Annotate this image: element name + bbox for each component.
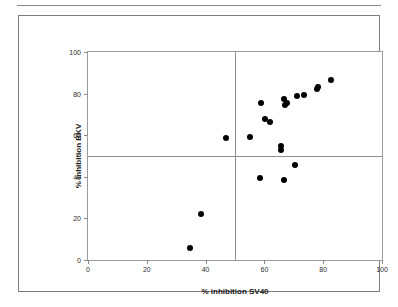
y-tick [84, 177, 88, 178]
page-top-rule [17, 5, 381, 6]
figure-page: 020406080100 020406080100 % inhibition S… [0, 0, 398, 307]
scatter-point [187, 245, 193, 251]
y-tick [84, 94, 88, 95]
y-tick [84, 52, 88, 53]
x-tick-label: 20 [143, 266, 151, 273]
x-tick [147, 260, 148, 264]
y-tick [84, 218, 88, 219]
horizontal-reference-line [88, 156, 382, 157]
x-tick [382, 260, 383, 264]
y-tick-label: 20 [73, 215, 81, 222]
x-tick-label: 0 [86, 266, 90, 273]
scatter-point [284, 100, 290, 106]
scatter-point [281, 177, 287, 183]
x-tick-label: 40 [202, 266, 210, 273]
y-tick [84, 135, 88, 136]
scatter-point [258, 100, 264, 106]
scatter-point [301, 92, 307, 98]
x-tick-label: 80 [319, 266, 327, 273]
x-tick [323, 260, 324, 264]
x-tick-label: 60 [260, 266, 268, 273]
scatter-point [315, 84, 321, 90]
scatter-point [294, 93, 300, 99]
scatter-point [328, 77, 334, 83]
scatter-point [223, 135, 229, 141]
scatter-point [278, 147, 284, 153]
scatter-point [292, 162, 298, 168]
scatter-point [267, 119, 273, 125]
x-tick [264, 260, 265, 264]
scatter-point [247, 134, 253, 140]
x-axis-title: % inhibition SV40 [87, 287, 383, 296]
plot-area: 020406080100 020406080100 [87, 51, 383, 261]
y-tick-label: 0 [77, 257, 81, 264]
scatter-point [198, 211, 204, 217]
figure-border: 020406080100 020406080100 % inhibition S… [18, 15, 380, 292]
x-tick [88, 260, 89, 264]
x-tick [206, 260, 207, 264]
y-tick-label: 80 [73, 90, 81, 97]
x-tick-label: 100 [376, 266, 388, 273]
y-axis-title: % inhibition BKV [74, 124, 83, 188]
scatter-point [257, 175, 263, 181]
y-tick-label: 100 [69, 49, 81, 56]
